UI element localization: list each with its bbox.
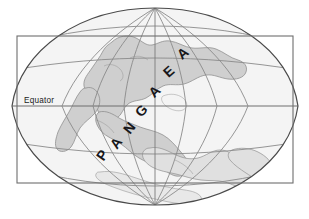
equator-label: Equator [24, 96, 54, 105]
map-canvas: Equator P A N G A E A [0, 0, 309, 219]
pangaea-map-figure: Equator P A N G A E A [0, 0, 309, 219]
